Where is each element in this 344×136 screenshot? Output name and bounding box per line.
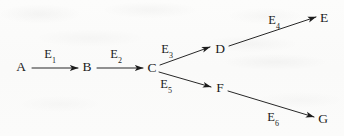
node-G: G	[318, 112, 328, 126]
node-F: F	[216, 81, 224, 95]
edge-label-E2: E2	[110, 48, 122, 64]
node-B: B	[82, 60, 91, 74]
graph-edges-layer	[0, 0, 344, 136]
edge-label-E5: E5	[160, 78, 172, 94]
node-D: D	[215, 42, 225, 56]
edge-label-E4: E4	[268, 14, 280, 30]
node-C: C	[147, 61, 156, 75]
node-A: A	[16, 60, 26, 74]
edge-label-E1: E1	[44, 48, 56, 64]
edge-label-E6: E6	[267, 111, 279, 127]
edge-label-E3: E3	[161, 43, 173, 59]
figure-canvas: A B C D E F G E1 E2 E3 E4 E5 E6	[0, 0, 344, 136]
node-E: E	[320, 11, 328, 25]
